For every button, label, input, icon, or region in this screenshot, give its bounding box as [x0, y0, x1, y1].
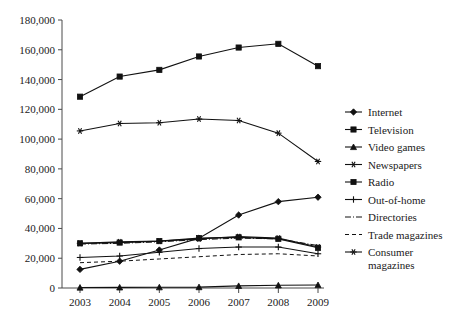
series-consumer-magazines	[77, 116, 321, 164]
series-path	[80, 254, 318, 263]
marker-square	[157, 67, 162, 72]
legend-label: Internet	[368, 106, 402, 118]
y-tick-label: 20,000	[25, 252, 56, 264]
marker-plus	[350, 196, 356, 202]
y-tick-label: 40,000	[25, 222, 56, 234]
marker-square	[315, 64, 320, 69]
marker-square	[196, 54, 201, 59]
marker-plus	[315, 251, 321, 257]
marker-square	[236, 45, 241, 50]
y-tick-label: 100,000	[19, 133, 55, 145]
legend-label: Trade magazines	[368, 229, 442, 241]
legend-label: Video games	[368, 141, 425, 153]
marker-plus	[196, 245, 202, 251]
marker-asterisk	[196, 116, 202, 122]
marker-diamond	[315, 194, 321, 200]
x-tick-label: 2004	[109, 296, 132, 308]
legend-item-out-of-home[interactable]: Out-of-home	[345, 194, 426, 206]
legend-item-directories[interactable]: Directories	[345, 211, 417, 223]
series-path	[80, 197, 318, 269]
series-television	[77, 41, 320, 99]
series-video-games	[77, 282, 321, 290]
marker-diamond	[275, 198, 281, 204]
series-path	[80, 44, 318, 97]
line-chart: 020,00040,00060,00080,000100,000120,0001…	[0, 0, 456, 320]
marker-diamond	[235, 212, 241, 218]
legend-item-trade-magazines[interactable]: Trade magazines	[345, 229, 442, 241]
marker-asterisk	[77, 128, 83, 134]
marker-asterisk	[116, 121, 122, 127]
x-tick-label: 2007	[228, 296, 251, 308]
x-tick-label: 2005	[148, 296, 171, 308]
series-trade-magazines	[80, 254, 318, 263]
marker-square	[351, 179, 356, 184]
marker-diamond	[77, 266, 83, 272]
marker-square	[236, 235, 241, 240]
y-tick-label: 60,000	[25, 193, 56, 205]
legend-item-internet[interactable]: Internet	[345, 106, 402, 118]
series-out-of-home	[77, 244, 321, 261]
marker-plus	[235, 244, 241, 250]
marker-plus	[116, 253, 122, 259]
legend-item-video-games[interactable]: Video games	[345, 141, 425, 153]
x-tick-label: 2008	[267, 296, 290, 308]
marker-plus	[275, 244, 281, 250]
legend-label: Directories	[368, 211, 417, 223]
x-tick-label: 2009	[307, 296, 330, 308]
marker-plus	[77, 254, 83, 260]
x-tick-label: 2003	[69, 296, 92, 308]
y-tick-label: 0	[50, 282, 56, 294]
y-tick-label: 80,000	[25, 163, 56, 175]
legend-label: Out-of-home	[368, 194, 426, 206]
marker-square	[196, 236, 201, 241]
chart-canvas: 020,00040,00060,00080,000100,000120,0001…	[0, 0, 456, 320]
marker-square	[117, 240, 122, 245]
y-tick-label: 120,000	[19, 103, 55, 115]
marker-square	[315, 245, 320, 250]
legend-item-television[interactable]: Television	[345, 124, 414, 136]
series-internet	[77, 194, 321, 273]
y-tick-label: 140,000	[19, 74, 55, 86]
legend-item-newspapers[interactable]: Newspapers	[345, 159, 422, 171]
marker-asterisk	[156, 120, 162, 126]
marker-square	[77, 241, 82, 246]
series-path	[80, 119, 318, 161]
y-tick-label: 160,000	[19, 44, 55, 56]
marker-square	[276, 41, 281, 46]
legend-label: magazines	[368, 259, 414, 271]
legend-item-radio[interactable]: Radio	[345, 176, 395, 188]
marker-square	[77, 94, 82, 99]
marker-asterisk	[350, 249, 356, 255]
legend-label: Television	[368, 124, 414, 136]
chart-legend: InternetTelevisionVideo gamesNewspapersR…	[345, 106, 442, 271]
marker-asterisk	[350, 162, 356, 168]
marker-square	[157, 239, 162, 244]
legend-label: Radio	[368, 176, 395, 188]
legend-label: Consumer	[368, 246, 414, 258]
marker-diamond	[350, 109, 356, 115]
legend-item-consumer-magazines[interactable]: Consumermagazines	[345, 246, 414, 271]
legend-label: Newspapers	[368, 159, 422, 171]
y-tick-label: 180,000	[19, 14, 55, 26]
x-tick-label: 2006	[188, 296, 211, 308]
marker-square	[351, 127, 356, 132]
marker-square	[117, 74, 122, 79]
marker-asterisk	[235, 118, 241, 124]
